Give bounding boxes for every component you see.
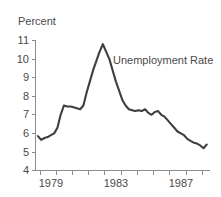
y-axis-title: Percent — [18, 15, 56, 27]
x-tick-label-1987: 1987 — [169, 177, 193, 189]
series-label-unemployment-rate: Unemployment Rate — [113, 54, 213, 66]
y-tick-label-5: 5 — [23, 146, 29, 158]
y-tick-label-11: 11 — [18, 34, 29, 46]
x-tick-label-1979: 1979 — [39, 177, 63, 189]
y-tick-label-8: 8 — [23, 90, 29, 102]
y-tick-label-9: 9 — [23, 71, 29, 83]
unemployment-rate-chart: Percent 11 10 9 8 7 6 5 4 1979 1983 1987 — [0, 0, 221, 197]
y-tick-marks — [32, 41, 36, 171]
y-tick-label-6: 6 — [23, 127, 29, 139]
x-tick-marks — [41, 171, 203, 175]
x-tick-label-1983: 1983 — [104, 177, 128, 189]
chart-canvas: Percent 11 10 9 8 7 6 5 4 1979 1983 1987 — [0, 0, 221, 197]
y-tick-label-7: 7 — [23, 108, 29, 120]
y-tick-label-10: 10 — [17, 53, 29, 65]
y-tick-label-4: 4 — [23, 164, 29, 176]
